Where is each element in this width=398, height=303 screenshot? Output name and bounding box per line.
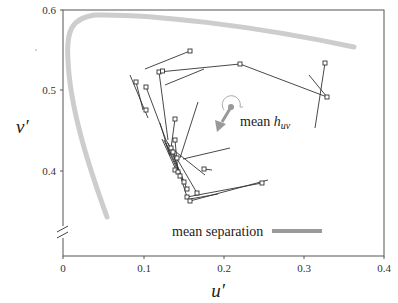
y-axis-break	[57, 226, 68, 238]
stray-dot	[35, 49, 37, 51]
x-tick-0.3: 0.3	[297, 262, 311, 274]
y-tick-labels: 0.6 0.5 0.4	[42, 4, 56, 177]
axis-ticks	[60, 10, 384, 259]
x-tick-0.2: 0.2	[217, 262, 231, 274]
legend-label-mean-separation: mean separation	[172, 224, 263, 239]
y-tick-0.5: 0.5	[42, 84, 56, 96]
spectral-locus-curve	[68, 15, 354, 217]
x-tick-labels: 0 0.1 0.2 0.3 0.4	[60, 262, 391, 274]
x-tick-0.1: 0.1	[137, 262, 151, 274]
data-markers	[134, 49, 329, 203]
mean-hue-arrow-icon	[215, 96, 243, 132]
y-tick-0.4: 0.4	[42, 165, 56, 177]
mean-huv-label: mean huv	[240, 114, 291, 131]
x-tick-0: 0	[60, 262, 66, 274]
legend: mean separation	[172, 224, 322, 239]
y-axis-title: v′	[16, 116, 29, 137]
x-axis-title: u′	[211, 280, 226, 301]
y-tick-0.6: 0.6	[42, 4, 56, 16]
x-tick-0.4: 0.4	[377, 262, 391, 274]
plot-frame	[63, 10, 384, 256]
chromaticity-chart: 0 0.1 0.2 0.3 0.4 0.6 0.5 0.4 u′ v′	[0, 0, 398, 303]
